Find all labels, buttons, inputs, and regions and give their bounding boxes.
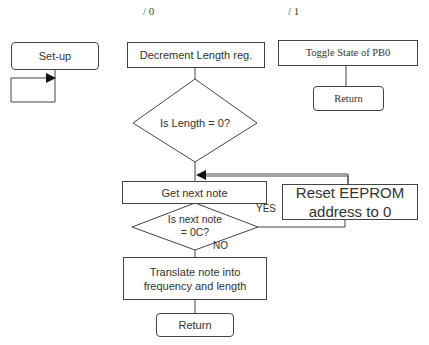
toggle-label: Toggle State of PB0 [306, 46, 391, 60]
arrowhead-get-next [196, 170, 206, 180]
yes-label: YES [256, 203, 276, 214]
note-check-decision: Is next note = 0C? [145, 213, 245, 239]
get-next-note-label: Get next note [161, 186, 227, 200]
reset-eeprom-box: Reset EEPROM address to 0 [282, 184, 418, 220]
note-check-line1: Is next note [145, 213, 245, 226]
toggle-pb0-box: Toggle State of PB0 [278, 40, 418, 66]
page-marker-1: / 1 [288, 5, 299, 17]
translate-line2: frequency and length [144, 279, 247, 293]
length-check-decision: Is Length = 0? [145, 116, 245, 130]
return-box-main: Return [156, 313, 234, 337]
translate-note-box: Translate note into frequency and length [123, 257, 267, 300]
return-box-toggle: Return [313, 86, 384, 111]
decrement-label: Decrement Length reg. [140, 48, 253, 62]
decrement-length-box: Decrement Length reg. [127, 42, 265, 68]
get-next-note-box: Get next note [122, 181, 267, 204]
setup-label: Set-up [39, 49, 71, 63]
length-check-label: Is Length = 0? [160, 117, 230, 129]
reset-line2: address to 0 [309, 202, 392, 221]
reset-line1: Reset EEPROM [296, 183, 404, 202]
return-label-toggle: Return [334, 92, 363, 106]
setup-box: Set-up [11, 42, 99, 70]
no-label: NO [213, 240, 228, 251]
return-label-main: Return [178, 318, 211, 332]
page-marker-0: / 0 [143, 5, 154, 17]
note-check-line2: = 0C? [145, 226, 245, 239]
translate-line1: Translate note into [150, 265, 241, 279]
